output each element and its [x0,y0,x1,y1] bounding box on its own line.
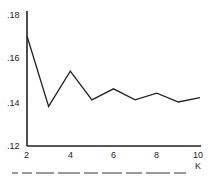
y-tick-label: .16 [7,53,20,63]
cut-off-caption [12,172,214,177]
y-tick-label: .18 [7,10,20,20]
x-tick-label: 10 [193,150,203,160]
x-tick-label: 6 [111,150,116,160]
x-tick-label: 4 [68,150,73,160]
x-tick-label: 2 [24,150,29,160]
x-axis-label: K [195,161,201,171]
x-tick-label: 8 [154,150,159,160]
data-line [27,36,200,106]
line-chart: .18 .16 .14 .12 2 4 6 8 10 K [0,0,218,177]
y-tick-label: .14 [7,98,20,108]
y-tick-label: .12 [7,141,20,151]
